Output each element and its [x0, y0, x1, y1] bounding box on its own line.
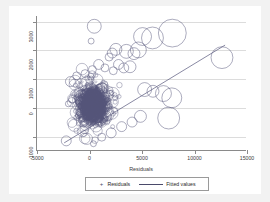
y-axis-tick	[33, 137, 37, 138]
legend-label-residuals: Residuals	[107, 181, 130, 187]
y-axis-tick-label: 1000	[28, 88, 34, 100]
y-axis-tick-label: 3000	[28, 31, 34, 43]
legend-item-fitted-values[interactable]: Fitted values	[139, 181, 195, 187]
y-axis-tick-label: 0	[28, 112, 34, 115]
x-axis-title: Residuals	[36, 166, 246, 172]
y-axis-tick	[33, 22, 37, 23]
y-axis-tick-label: 2000	[28, 59, 34, 71]
x-axis-tick-label: 0	[88, 155, 91, 161]
x-axis-tick-label: 10000	[187, 155, 201, 161]
x-axis-tick	[90, 150, 91, 154]
y-axis-tick	[33, 50, 37, 51]
x-axis-tick-label: 5000	[136, 155, 148, 161]
y-axis-tick	[33, 108, 37, 109]
circle-marker-icon: +	[98, 181, 104, 187]
legend-item-residuals[interactable]: + Residuals	[98, 181, 130, 187]
chart-legend: + Residuals Fitted values	[85, 177, 209, 191]
x-axis-tick-label: 15000	[240, 155, 254, 161]
line-marker-icon	[139, 184, 163, 185]
fitted-line	[37, 16, 246, 150]
fitted-line-path	[64, 45, 225, 143]
plot-area: -10000100020003000 -5000050001000015000	[36, 16, 246, 151]
x-axis-tick	[247, 150, 248, 154]
legend-label-fitted-values: Fitted values	[166, 181, 195, 187]
x-axis-tick-label: -5000	[30, 155, 43, 161]
x-axis-tick	[37, 150, 38, 154]
chart-screenshot: -10000100020003000 -5000050001000015000 …	[0, 0, 270, 202]
graph-region: -10000100020003000 -5000050001000015000 …	[9, 6, 261, 194]
plot-inner	[37, 16, 246, 150]
x-axis-tick	[142, 150, 143, 154]
x-axis-tick	[195, 150, 196, 154]
y-axis-tick	[33, 79, 37, 80]
